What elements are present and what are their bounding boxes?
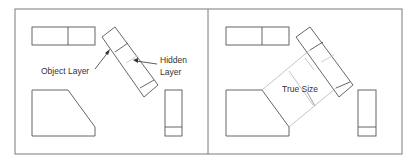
auxiliary-band-line — [336, 82, 350, 88]
hidden-line — [321, 55, 334, 62]
hidden-layer-arrowhead — [133, 58, 138, 63]
true-size-dimension-2b — [307, 92, 315, 106]
right-panel: True Size — [226, 27, 376, 136]
true-size-label: True Size — [282, 84, 318, 94]
side-view-rect — [358, 90, 376, 136]
hidden-layer-leader — [136, 61, 157, 64]
front-view-trapezoid — [226, 90, 289, 136]
hidden-layer-label-line1: Hidden — [160, 55, 187, 65]
left-panel: Object Layer Hidden Layer — [32, 27, 187, 136]
top-view-rect — [32, 27, 95, 45]
front-view-trapezoid — [32, 90, 95, 136]
auxiliary-view-diagram: Object Layer Hidden Layer True Size — [0, 0, 418, 163]
object-layer-label: Object Layer — [41, 66, 89, 76]
auxiliary-band-line — [140, 80, 154, 88]
auxiliary-fold-line — [115, 43, 128, 52]
auxiliary-fold-line — [310, 42, 323, 50]
top-view-rect — [226, 27, 289, 45]
auxiliary-view-rect — [102, 27, 158, 97]
object-layer-arrowhead — [105, 49, 110, 55]
hidden-layer-label-line2: Layer — [160, 67, 181, 77]
side-view-rect — [165, 90, 182, 136]
